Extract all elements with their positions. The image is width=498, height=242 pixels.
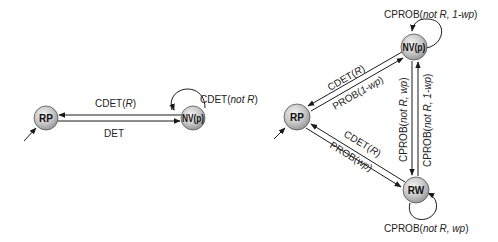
node-nvp-right: NV(p) — [401, 34, 427, 60]
node-rp-right: RP — [284, 104, 310, 130]
node-nvp-left: NV(p) — [181, 106, 205, 130]
svg-text:RP: RP — [39, 113, 53, 124]
node-rp-left: RP — [34, 106, 58, 130]
label-cprob-notr-wp-bottom: CPROB(not R, wp) — [384, 223, 469, 234]
label-cprob-notr-wp-vertical: CPROB(not R, wp) — [398, 78, 409, 163]
label-cdet-r-left: CDET(R) — [95, 98, 136, 109]
label-det-left: DET — [104, 128, 124, 139]
label-cprob-notr-1wp-top: CPROB(not R, 1-wp) — [384, 9, 477, 20]
svg-text:NV(p): NV(p) — [182, 113, 204, 124]
initial-arrow-left — [24, 128, 36, 141]
label-cprob-notr-1wp-vertical: CPROB(not R, 1-wp) — [422, 74, 433, 167]
svg-text:NV(p): NV(p) — [403, 42, 426, 53]
initial-arrow-right — [274, 128, 285, 139]
left-diagram: CDET(R) DET CDET(not R) RP NV(p) — [24, 89, 258, 141]
svg-text:RW: RW — [408, 185, 425, 196]
state-diagrams: CDET(R) DET CDET(not R) RP NV(p) — [0, 0, 498, 242]
node-rw-right: RW — [403, 177, 429, 203]
right-diagram: CPROB(not R, 1-wp) CDET(R) PROB(1-wp) CP… — [274, 9, 477, 234]
label-cdet-notr-left: CDET(not R) — [200, 94, 258, 105]
svg-text:RP: RP — [290, 112, 304, 123]
